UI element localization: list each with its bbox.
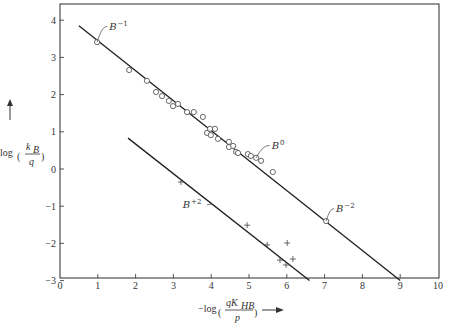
- plus-marker-icon: [178, 179, 184, 185]
- chart-svg: 01234567891043210−1−2−3 B−1B0B−2B+2 log …: [0, 0, 449, 327]
- x-tick-label: 6: [284, 280, 289, 291]
- circle-marker-icon: [235, 150, 240, 155]
- x-tick-label: 5: [247, 280, 252, 291]
- plot-border: [60, 4, 439, 278]
- circle-marker-icon: [175, 101, 180, 106]
- x-tick-label: 0: [58, 280, 63, 291]
- x-tick-label: 7: [322, 280, 327, 291]
- circle-marker-icon: [258, 158, 263, 163]
- x-tick-label: 10: [433, 280, 443, 291]
- y-title-prefix: log: [0, 147, 13, 158]
- plus-marker-icon: [290, 256, 296, 262]
- circle-marker-icon: [226, 139, 231, 144]
- x-title-paren-left: (: [218, 307, 222, 319]
- circle-marker-icon: [170, 104, 175, 109]
- annotations: B−1B0B−2B+2: [97, 20, 355, 222]
- x-title-den: p: [234, 312, 240, 323]
- circle-marker-icon: [215, 136, 220, 141]
- y-tick-label: 4: [51, 15, 56, 26]
- circle-marker-icon: [144, 78, 149, 83]
- y-tick-label: 0: [51, 164, 56, 175]
- plus-marker-icon: [284, 240, 290, 246]
- y-title-paren-left: (: [17, 151, 21, 163]
- circle-marker-icon: [207, 126, 212, 131]
- fit-line: [128, 138, 309, 280]
- x-tick-label: 8: [360, 280, 365, 291]
- data-points: [94, 40, 328, 268]
- circle-marker-icon: [153, 89, 158, 94]
- annotation-label: B0: [271, 139, 285, 151]
- y-tick-label: 3: [51, 52, 56, 63]
- y-title-sub: B: [33, 144, 39, 155]
- circle-marker-icon: [94, 40, 99, 45]
- annotation-label: B−1: [108, 20, 128, 32]
- axis-ticks: 01234567891043210−1−2−3: [45, 15, 443, 291]
- y-axis-title: log ( k B q ): [0, 99, 44, 167]
- y-tick-label: −1: [45, 201, 56, 212]
- x-title-num: qK: [226, 297, 239, 308]
- circle-marker-icon: [127, 67, 132, 72]
- y-tick-label: −2: [45, 238, 56, 249]
- circle-marker-icon: [191, 109, 196, 114]
- circle-marker-icon: [166, 98, 171, 103]
- y-tick-label: 2: [51, 89, 56, 100]
- y-title-num: k: [26, 141, 31, 152]
- plus-marker-icon: [264, 242, 270, 248]
- y-title-den: q: [29, 156, 34, 167]
- circle-marker-icon: [212, 126, 217, 131]
- plus-marker-icon: [244, 222, 250, 228]
- annotation-leader: [207, 204, 211, 205]
- x-tick-label: 2: [133, 280, 138, 291]
- circle-marker-icon: [208, 133, 213, 138]
- circle-marker-icon: [159, 93, 164, 98]
- circle-marker-icon: [231, 143, 236, 148]
- arrow-up-icon: [7, 99, 13, 106]
- x-tick-label: 3: [171, 280, 176, 291]
- y-tick-label: −3: [45, 275, 56, 286]
- x-tick-label: 4: [209, 280, 214, 291]
- circle-marker-icon: [248, 153, 253, 158]
- x-title-paren-right: ): [254, 307, 257, 319]
- x-axis-title: −log ( qK HB p ): [198, 297, 284, 323]
- circle-marker-icon: [270, 169, 275, 174]
- annotation-label: B+2: [182, 198, 202, 210]
- circle-marker-icon: [200, 114, 205, 119]
- annotation-label: B−2: [335, 202, 355, 214]
- y-tick-label: 1: [51, 126, 56, 137]
- plus-marker-icon: [277, 257, 283, 263]
- plot-frame: [60, 4, 439, 278]
- arrow-right-icon: [276, 307, 284, 313]
- x-tick-label: 9: [398, 280, 403, 291]
- circle-marker-icon: [184, 109, 189, 114]
- x-title-sub: HB: [240, 300, 254, 311]
- x-title-prefix: −log: [198, 303, 216, 314]
- plus-marker-icon: [283, 262, 289, 268]
- x-tick-label: 1: [95, 280, 100, 291]
- y-title-paren-right: ): [41, 151, 44, 163]
